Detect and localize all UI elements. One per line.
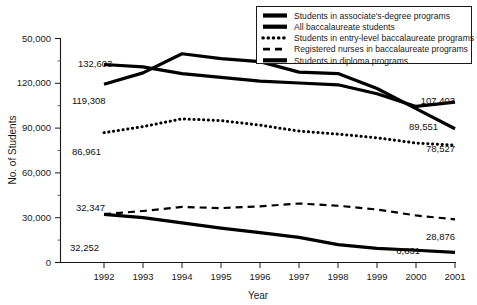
annotation-assoc-end: 107,403 — [421, 95, 455, 106]
y-tick-label-0: 0 — [46, 257, 51, 268]
annotation-diploma-start: 32,252 — [70, 242, 99, 253]
y-tick-label-150000: 50,000 — [22, 33, 51, 44]
x-tick-label-1994: 1994 — [171, 271, 192, 282]
y-tick-label-90000: 90,000 — [22, 122, 51, 133]
x-tick-label-2000: 2000 — [405, 271, 426, 282]
legend-label-entry-level: Students in entry-level baccalaureate pr… — [294, 33, 474, 43]
y-tick-label-120000: 120,000 — [17, 77, 51, 88]
annotation-bacc-start: 119,308 — [72, 95, 106, 106]
x-axis-title: Year — [248, 290, 269, 301]
x-tick-label-1992: 1992 — [93, 271, 114, 282]
y-tick-label-30000: 30,000 — [22, 212, 51, 223]
annotation-diploma-end: 6,831 — [396, 245, 420, 256]
y-axis-title: No. of Students — [7, 116, 18, 185]
x-tick-label-1999: 1999 — [366, 271, 387, 282]
annotation-rn-start: 32,347 — [76, 202, 105, 213]
x-tick-label-1997: 1997 — [288, 271, 309, 282]
x-tick-label-1998: 1998 — [327, 271, 348, 282]
y-tick-label-60000: 60,000 — [22, 167, 51, 178]
annotation-bacc-end: 89,551 — [409, 121, 438, 132]
annotation-entry-start: 86,961 — [72, 146, 101, 157]
annotation-assoc-start: 132,603 — [78, 58, 112, 69]
x-tick-label-1996: 1996 — [249, 271, 270, 282]
annotation-entry-end: 78,527 — [426, 143, 455, 154]
legend-label-all-baccalaureate: All baccalaureate students — [294, 22, 395, 32]
legend-label-associate-degree: Students in associate's-degree programs — [294, 11, 450, 21]
line-chart-svg: 0 30,000 60,000 90,000 120,000 50,000 No… — [0, 0, 477, 305]
annotation-rn-end: 28,876 — [426, 231, 455, 242]
x-tick-label-1993: 1993 — [132, 271, 153, 282]
chart-legend: Students in associate's-degree programs … — [257, 7, 475, 66]
x-tick-label-2001: 2001 — [444, 271, 465, 282]
x-tick-label-1995: 1995 — [210, 271, 231, 282]
legend-label-registered-nurses: Registered nurses in baccalaureate progr… — [294, 44, 468, 54]
chart-figure: 0 30,000 60,000 90,000 120,000 50,000 No… — [0, 0, 477, 305]
legend-label-diploma: Students in diploma programs — [294, 56, 408, 66]
